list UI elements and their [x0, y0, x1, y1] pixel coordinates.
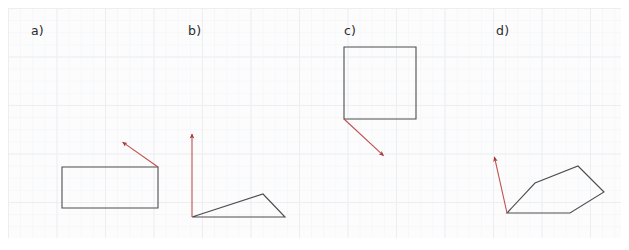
figure-canvas: a) b) c) d) — [0, 0, 629, 250]
vector-d-arrow — [494, 157, 507, 213]
shape-a-rectangle — [62, 167, 158, 208]
vector-c-arrow — [344, 119, 384, 156]
panel-label-b: b) — [188, 23, 201, 38]
panel-label-c: c) — [344, 23, 356, 38]
panel-c-group — [344, 47, 416, 156]
drawing-layer — [0, 0, 629, 250]
panel-a-group — [62, 142, 158, 208]
vector-a-arrow — [123, 142, 158, 167]
panel-b-group — [192, 134, 285, 217]
panel-d-group — [494, 157, 604, 213]
shape-d-pentagon — [507, 166, 604, 213]
panel-label-a: a) — [31, 23, 44, 38]
shape-c-square — [344, 47, 416, 119]
panel-label-d: d) — [496, 23, 509, 38]
shape-b-triangle — [192, 194, 285, 217]
